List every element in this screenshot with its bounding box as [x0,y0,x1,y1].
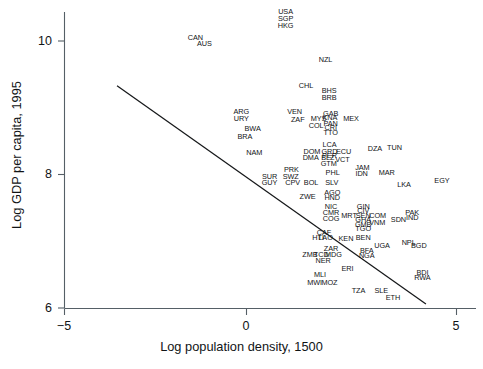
data-point-label: HND [324,194,340,201]
data-point-label: COG [323,215,339,222]
data-point-label: COL [309,122,324,129]
data-point-label: GTM [321,160,337,167]
data-point-label: KEN [339,236,354,243]
data-point-label: SDN [391,216,406,223]
data-point-label: MEX [343,115,359,122]
data-point-label: NZL [319,56,333,63]
data-point-label: SLV [325,179,338,186]
data-point-label: DZA [368,145,382,152]
x-axis-label: Log population density, 1500 [0,339,483,354]
data-point-label: VNM [369,220,385,227]
data-point-label: MOZ [321,279,337,286]
data-point-label: ERI [342,265,354,272]
data-point-label: GUY [262,179,278,186]
regression-line-group [117,86,426,304]
scatter-plot-figure: 10 8 6 −5 0 5 Log population density, 15… [0,0,483,369]
data-point-label: ZWE [300,194,316,201]
data-point-label: EGY [434,178,449,185]
x-tick-label-5: 5 [453,320,460,333]
data-point-label: DMA [303,154,319,161]
data-point-label: BOL [304,180,318,187]
data-point-label: AUS [197,41,212,48]
x-tick-label-neg5: −5 [57,320,71,333]
data-point-label: LKA [397,182,411,189]
data-point-label: NGA [359,252,375,259]
y-axis-label: Log GDP per capita, 1995 [9,81,24,229]
data-point-label: VCT [335,156,349,163]
y-axis-label-wrap: Log GDP per capita, 1995 [4,0,28,310]
y-tick-label-8: 8 [30,168,52,181]
data-point-label: LAO [318,234,332,241]
data-point-label: HKG [278,22,294,29]
data-point-label: TUN [387,144,402,151]
data-point-label: ETH [386,294,400,301]
data-point-label: MWI [307,279,322,286]
data-point-label: CHL [299,82,313,89]
data-point-label: PHL [326,169,340,176]
axes-group [58,12,476,315]
x-tick-label-0: 0 [243,320,250,333]
data-point-label: BEN [356,234,371,241]
data-point-label: NER [316,258,331,265]
data-point-label: BGD [411,242,427,249]
y-tick-label-10: 10 [30,35,52,48]
y-tick-label-6: 6 [30,302,52,315]
data-point-label: IND [406,214,418,221]
data-point-label: TTO [324,129,338,136]
data-point-label: CPV [285,179,300,186]
data-point-label: UGA [374,242,390,249]
data-point-label: ZAF [291,117,305,124]
data-point-label: MAR [379,169,395,176]
data-point-label: RWA [414,274,430,281]
data-point-label: NAM [246,149,262,156]
data-point-label: IDN [355,170,367,177]
data-point-label: BRA [237,133,252,140]
data-point-label: TZA [352,288,366,295]
regression-line [117,86,426,304]
data-point-label: BRB [322,94,337,101]
data-point-label: TGO [355,226,371,233]
data-point-label: URY [234,115,249,122]
